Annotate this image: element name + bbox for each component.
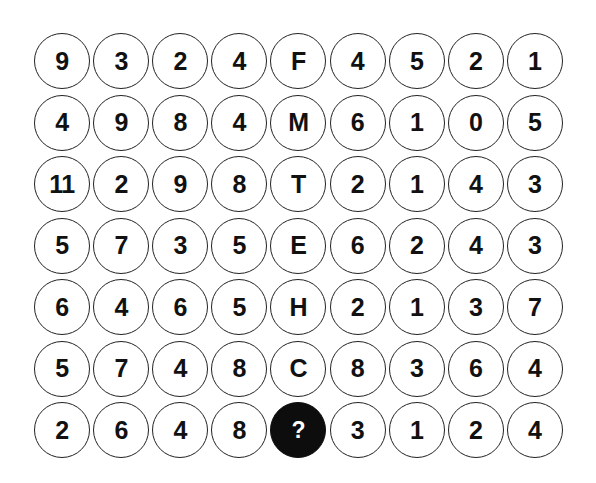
puzzle-cell: 1: [389, 95, 445, 151]
puzzle-cell: 3: [389, 341, 445, 397]
puzzle-cell: 4: [34, 95, 90, 151]
puzzle-cell: 1: [507, 33, 563, 89]
puzzle-cell: 4: [211, 33, 267, 89]
puzzle-cell: 8: [211, 402, 267, 458]
puzzle-cell: 4: [330, 33, 386, 89]
puzzle-cell: 4: [448, 218, 504, 274]
puzzle-cell: 5: [211, 279, 267, 335]
puzzle-cell: 8: [152, 95, 208, 151]
puzzle-cell: 5: [211, 218, 267, 274]
puzzle-cell: 1: [389, 279, 445, 335]
puzzle-cell: 6: [34, 279, 90, 335]
puzzle-cell: 4: [507, 402, 563, 458]
puzzle-cell: 4: [93, 279, 149, 335]
puzzle-cell: 6: [448, 341, 504, 397]
puzzle-cell: 9: [152, 156, 208, 212]
puzzle-cell: 3: [507, 218, 563, 274]
puzzle-cell: 1: [389, 156, 445, 212]
puzzle-cell: 4: [448, 156, 504, 212]
puzzle-cell: 6: [330, 218, 386, 274]
puzzle-cell: 3: [448, 279, 504, 335]
puzzle-cell: 3: [93, 33, 149, 89]
puzzle-cell: 5: [34, 341, 90, 397]
puzzle-cell: 0: [448, 95, 504, 151]
puzzle-cell: 3: [507, 156, 563, 212]
puzzle-cell: 6: [93, 402, 149, 458]
puzzle-cell: T: [270, 156, 326, 212]
puzzle-cell: 5: [389, 33, 445, 89]
unknown-cell-question-mark: ?: [270, 402, 326, 458]
puzzle-cell: H: [270, 279, 326, 335]
puzzle-cell: 4: [211, 95, 267, 151]
number-circle-puzzle: 9324F45214984M610511298T21435735E6243646…: [0, 0, 596, 483]
puzzle-cell: E: [270, 218, 326, 274]
puzzle-cell: 2: [330, 156, 386, 212]
puzzle-cell: M: [270, 95, 326, 151]
puzzle-cell: 6: [330, 95, 386, 151]
puzzle-cell: 7: [507, 279, 563, 335]
puzzle-cell: 5: [34, 218, 90, 274]
puzzle-cell: 7: [93, 218, 149, 274]
puzzle-cell: 6: [152, 279, 208, 335]
puzzle-cell: 8: [211, 341, 267, 397]
puzzle-cell: 4: [507, 341, 563, 397]
puzzle-cell: F: [270, 33, 326, 89]
puzzle-cell: 2: [330, 279, 386, 335]
puzzle-cell: 3: [152, 218, 208, 274]
puzzle-cell: 9: [34, 33, 90, 89]
puzzle-cell: 2: [34, 402, 90, 458]
puzzle-cell: 2: [93, 156, 149, 212]
puzzle-cell: 8: [330, 341, 386, 397]
puzzle-cell: 2: [448, 33, 504, 89]
puzzle-cell: 9: [93, 95, 149, 151]
puzzle-cell: C: [270, 341, 326, 397]
puzzle-cell: 2: [152, 33, 208, 89]
puzzle-cell: 3: [330, 402, 386, 458]
puzzle-cell: 2: [389, 218, 445, 274]
puzzle-cell: 5: [507, 95, 563, 151]
puzzle-cell: 1: [389, 402, 445, 458]
puzzle-cell: 2: [448, 402, 504, 458]
puzzle-cell: 4: [152, 402, 208, 458]
puzzle-cell: 11: [34, 156, 90, 212]
puzzle-cell: 8: [211, 156, 267, 212]
puzzle-cell: 4: [152, 341, 208, 397]
puzzle-cell: 7: [93, 341, 149, 397]
